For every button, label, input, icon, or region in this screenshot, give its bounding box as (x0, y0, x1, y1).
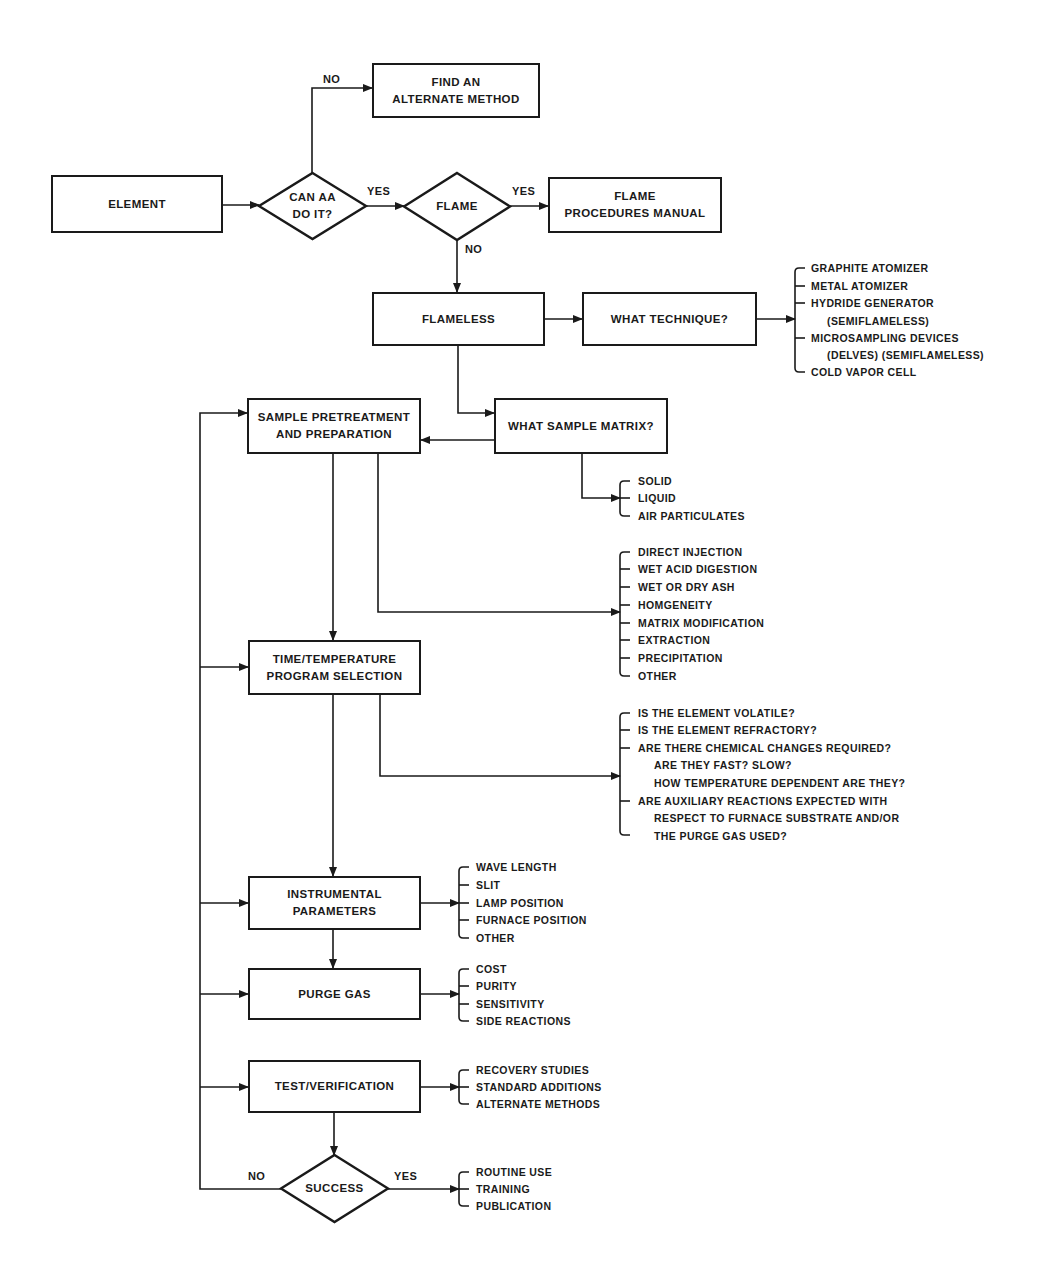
edge-label-flame-no: NO (465, 243, 482, 255)
process-box-test-verification: TEST/VERIFICATION (248, 1060, 421, 1113)
list-item: COLD VAPOR CELL (811, 365, 917, 379)
connector-canaa-no (312, 88, 372, 173)
list-item: THE PURGE GAS USED? (654, 829, 787, 843)
list-item: OTHER (638, 669, 677, 683)
connector-flameless-to-matrix (458, 346, 494, 413)
connector-time-to-list (380, 695, 620, 776)
process-box-what-technique: WHAT TECHNIQUE? (582, 292, 757, 346)
list-item: FURNACE POSITION (476, 913, 587, 927)
edge-label-flame-yes: YES (512, 185, 535, 197)
list-item: TRAINING (476, 1182, 530, 1196)
process-box-element: ELEMENT (51, 175, 223, 233)
list-item: SOLID (638, 474, 672, 488)
process-box-flameless: FLAMELESS (372, 292, 545, 346)
process-box-find-alternate: FIND AN ALTERNATE METHOD (372, 63, 540, 118)
process-box-what-matrix: WHAT SAMPLE MATRIX? (494, 398, 668, 454)
list-item: SENSITIVITY (476, 997, 545, 1011)
bracket-purge-options (459, 969, 469, 1021)
edge-label-success-yes: YES (394, 1170, 417, 1182)
list-item: EXTRACTION (638, 633, 710, 647)
list-item: MATRIX MODIFICATION (638, 616, 764, 630)
connector-matrix-to-list (582, 454, 620, 498)
flowchart-canvas: ELEMENTCAN AA DO IT?FIND AN ALTERNATE ME… (0, 0, 1057, 1269)
list-item: ARE THERE CHEMICAL CHANGES REQUIRED? (638, 741, 891, 755)
list-item: AIR PARTICULATES (638, 509, 745, 523)
list-item: RECOVERY STUDIES (476, 1063, 589, 1077)
list-item: GRAPHITE ATOMIZER (811, 261, 928, 275)
edge-label-success-no: NO (248, 1170, 265, 1182)
bracket-technique-options (795, 268, 805, 372)
list-item: RESPECT TO FURNACE SUBSTRATE AND/OR (654, 811, 899, 825)
list-item: PRECIPITATION (638, 651, 723, 665)
list-item: LAMP POSITION (476, 896, 564, 910)
list-item: ALTERNATE METHODS (476, 1097, 600, 1111)
list-item: IS THE ELEMENT VOLATILE? (638, 706, 795, 720)
list-item: IS THE ELEMENT REFRACTORY? (638, 723, 817, 737)
decision-label-success: SUCCESS (281, 1155, 388, 1222)
list-item: (SEMIFLAMELESS) (827, 314, 929, 328)
list-item: ARE THEY FAST? SLOW? (654, 758, 792, 772)
list-item: ARE AUXILIARY REACTIONS EXPECTED WITH (638, 794, 888, 808)
decision-label-flame: FLAME (404, 173, 510, 240)
list-item: METAL ATOMIZER (811, 279, 908, 293)
process-box-purge-gas: PURGE GAS (248, 968, 421, 1020)
list-item: WAVE LENGTH (476, 860, 557, 874)
list-item: (DELVES) (SEMIFLAMELESS) (827, 348, 984, 362)
list-item: MICROSAMPLING DEVICES (811, 331, 959, 345)
list-item: WET ACID DIGESTION (638, 562, 757, 576)
list-item: PURITY (476, 979, 517, 993)
list-item: COST (476, 962, 507, 976)
process-box-time-temp: TIME/TEMPERATURE PROGRAM SELECTION (248, 640, 421, 695)
list-item: HYDRIDE GENERATOR (811, 296, 934, 310)
bracket-time-temp-questions (620, 713, 630, 835)
process-box-instrumental: INSTRUMENTAL PARAMETERS (248, 876, 421, 930)
list-item: SLIT (476, 878, 500, 892)
process-box-flame-manual: FLAME PROCEDURES MANUAL (548, 177, 722, 233)
edge-label-can-aa-yes: YES (367, 185, 390, 197)
edge-label-can-aa-no: NO (323, 73, 340, 85)
decision-label-can-aa: CAN AA DO IT? (259, 173, 366, 239)
list-item: STANDARD ADDITIONS (476, 1080, 602, 1094)
list-item: WET OR DRY ASH (638, 580, 735, 594)
list-item: DIRECT INJECTION (638, 545, 742, 559)
connector-prep-to-list (378, 454, 620, 612)
list-item: OTHER (476, 931, 515, 945)
list-item: HOW TEMPERATURE DEPENDENT ARE THEY? (654, 776, 905, 790)
list-item: LIQUID (638, 491, 676, 505)
list-item: HOMGENEITY (638, 598, 713, 612)
process-box-sample-prep: SAMPLE PRETREATMENT AND PREPARATION (247, 398, 421, 454)
list-item: PUBLICATION (476, 1199, 551, 1213)
list-item: ROUTINE USE (476, 1165, 552, 1179)
list-item: SIDE REACTIONS (476, 1014, 571, 1028)
